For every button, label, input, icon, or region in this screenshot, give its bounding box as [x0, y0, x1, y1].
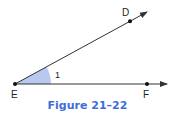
geometry-figure: D E F 1 Figure 21–22 [0, 0, 175, 124]
label-angle-1: 1 [55, 70, 60, 80]
ray-ED [15, 12, 147, 84]
point-E [13, 82, 17, 86]
point-D [128, 19, 132, 23]
point-F [145, 82, 149, 86]
label-D: D [122, 7, 129, 18]
figure-caption: Figure 21–22 [0, 99, 175, 112]
